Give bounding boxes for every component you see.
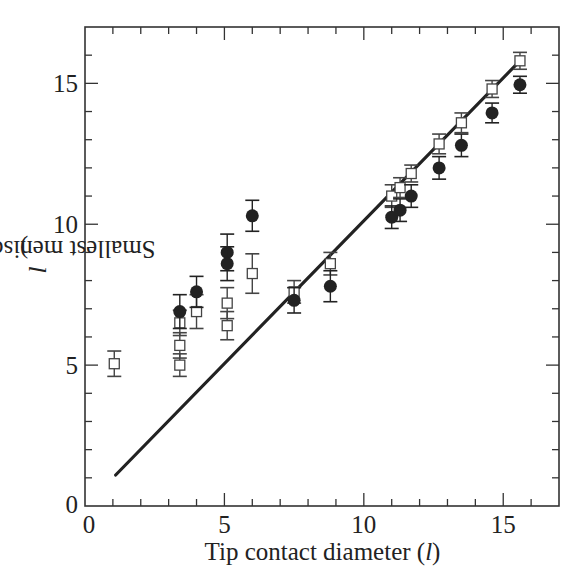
y-tick-label: 10 <box>53 211 78 238</box>
y-tick-label: 5 <box>66 352 79 379</box>
x-tick-label: 0 <box>83 511 96 538</box>
data-point-circle <box>454 134 468 157</box>
scatter-chart: 051015051015 <box>0 0 581 588</box>
data-point-square <box>107 351 121 376</box>
x-tick-label: 5 <box>218 511 231 538</box>
y-tick-label: 15 <box>53 70 78 97</box>
data-point-circle <box>245 200 259 231</box>
data-point-circle <box>190 276 204 307</box>
series-filled-circles <box>173 76 527 328</box>
x-tick-label: 15 <box>491 511 516 538</box>
data-point-circle <box>404 185 418 208</box>
data-point-square <box>245 254 259 293</box>
data-point-square <box>220 312 234 340</box>
series-open-squares <box>107 52 527 376</box>
data-point-circle <box>513 76 527 93</box>
data-point-circle <box>485 103 499 123</box>
y-tick-label: 0 <box>66 491 79 518</box>
data-point-square <box>173 354 187 377</box>
data-point-circle <box>432 157 446 180</box>
x-tick-label: 10 <box>351 511 376 538</box>
x-axis-label: Tip contact diameter (l) <box>0 538 581 566</box>
